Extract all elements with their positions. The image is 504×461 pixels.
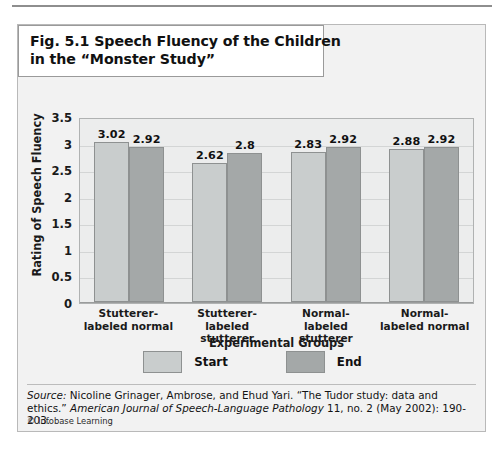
figure-title-line-1: Fig. 5.1 Speech Fluency of the Children: [30, 33, 313, 51]
bar-value-label: 2.92: [329, 133, 357, 146]
y-axis-title-text: Rating of Speech Fluency: [30, 113, 44, 276]
bar-start: 3.02: [94, 142, 129, 302]
y-tick-label: 3.5: [51, 111, 72, 125]
bar-group: 2.622.8: [178, 119, 276, 302]
bar-end: 2.92: [129, 147, 164, 302]
bar-end: 2.92: [326, 147, 361, 302]
bar-group: 2.832.92: [277, 119, 375, 302]
legend-item-start: Start: [143, 351, 228, 373]
y-tick-label: 0.5: [51, 270, 72, 284]
bar-groups: 3.022.922.622.82.832.922.882.92: [80, 119, 473, 302]
legend-item-end: End: [286, 351, 362, 373]
bar-end: 2.92: [424, 147, 459, 302]
bar-value-label: 2.62: [196, 149, 224, 162]
legend-swatch-end: [286, 351, 325, 373]
bar-end: 2.8: [227, 153, 262, 302]
x-axis-category-labels: Stutterer-labeled normalStutterer-labele…: [79, 307, 474, 337]
bar-chart: Rating of Speech Fluency 3.532.521.510.5…: [30, 87, 474, 327]
top-divider-rule: [12, 5, 492, 7]
x-category-label: Normal-labeled stutterer: [277, 307, 376, 337]
x-category-label: Stutterer-labeled stutterer: [178, 307, 277, 337]
legend-swatch-start: [143, 351, 182, 373]
bar-group: 3.022.92: [80, 119, 178, 302]
source-label: Source:: [27, 389, 66, 401]
x-category-label-line: Normal-: [277, 307, 376, 320]
bar-value-label: 3.02: [98, 128, 126, 141]
x-category-label-line: labeled normal: [375, 320, 474, 333]
figure-title-line-2: in the “Monster Study”: [30, 51, 313, 69]
x-axis-line: [80, 302, 473, 303]
x-category-label: Stutterer-labeled normal: [79, 307, 178, 337]
y-tick-label: 0: [64, 297, 72, 311]
y-axis-tick-labels: 3.532.521.510.50: [44, 118, 76, 304]
bar-value-label: 2.83: [294, 138, 322, 151]
bar-value-label: 2.92: [133, 133, 161, 146]
x-category-label-line: Normal-: [375, 307, 474, 320]
y-tick-label: 2.5: [51, 164, 72, 178]
bar-start: 2.62: [192, 163, 227, 302]
copyright-text: Infobase Learning: [38, 416, 113, 426]
legend-label-end: End: [337, 355, 362, 369]
bar-group: 2.882.92: [375, 119, 473, 302]
copyright-credit: © Infobase Learning: [27, 416, 113, 426]
y-tick-label: 1: [64, 244, 72, 258]
x-category-label-line: Stutterer-: [79, 307, 178, 320]
plot-area: 3.022.922.622.82.832.922.882.92: [79, 118, 474, 304]
bar-start: 2.88: [389, 149, 424, 302]
figure-title-box: Fig. 5.1 Speech Fluency of the Children …: [18, 25, 324, 77]
source-journal-name: American Journal of Speech-Language Path…: [70, 402, 324, 414]
copyright-icon: ©: [27, 416, 35, 426]
x-category-label: Normal-labeled normal: [375, 307, 474, 337]
legend-label-start: Start: [194, 355, 228, 369]
bar-value-label: 2.8: [235, 139, 255, 152]
y-tick-label: 1.5: [51, 217, 72, 231]
x-category-label-line: Stutterer-: [178, 307, 277, 320]
y-tick-label: 2: [64, 191, 72, 205]
chart-legend: Start End: [35, 348, 470, 376]
bar-start: 2.83: [291, 152, 326, 302]
y-tick-label: 3: [64, 138, 72, 152]
figure-panel: Fig. 5.1 Speech Fluency of the Children …: [17, 24, 486, 432]
bar-value-label: 2.88: [393, 135, 421, 148]
source-divider-rule: [27, 384, 476, 385]
bar-value-label: 2.92: [428, 133, 456, 146]
x-category-label-line: labeled normal: [79, 320, 178, 333]
